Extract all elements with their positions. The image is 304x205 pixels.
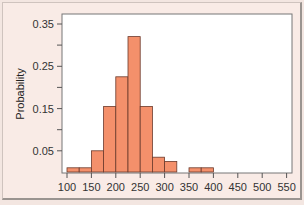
histogram-bar: [201, 168, 213, 172]
x-axis: 100150200250300350400450500550: [58, 173, 296, 193]
y-tick-label: 0.15: [33, 103, 54, 115]
histogram-bar: [79, 168, 91, 172]
histogram-chart: 0.050.150.250.35 10015020025030035040045…: [0, 0, 304, 205]
histogram-bar: [104, 106, 116, 172]
histogram-bar: [140, 106, 152, 172]
x-tick-label: 400: [204, 181, 222, 193]
y-tick-label: 0.25: [33, 60, 54, 72]
x-tick-label: 450: [229, 181, 247, 193]
histogram-bar: [67, 168, 79, 172]
y-axis: 0.050.150.250.35: [33, 18, 62, 157]
x-tick-label: 500: [253, 181, 271, 193]
histogram-bar: [128, 37, 140, 172]
y-axis-title: Probability: [14, 68, 26, 120]
histogram-bar: [116, 77, 128, 172]
histogram-bar: [189, 168, 201, 172]
x-tick-label: 350: [180, 181, 198, 193]
x-tick-label: 200: [107, 181, 125, 193]
histogram-bar: [165, 161, 177, 172]
y-tick-label: 0.35: [33, 18, 54, 30]
histogram-bar: [152, 157, 164, 172]
y-tick-label: 0.05: [33, 145, 54, 157]
x-tick-label: 550: [277, 181, 295, 193]
x-tick-label: 150: [82, 181, 100, 193]
x-tick-label: 100: [58, 181, 76, 193]
histogram-bar: [91, 151, 103, 172]
x-tick-label: 300: [155, 181, 173, 193]
plot-area: [62, 14, 292, 173]
x-tick-label: 250: [131, 181, 149, 193]
